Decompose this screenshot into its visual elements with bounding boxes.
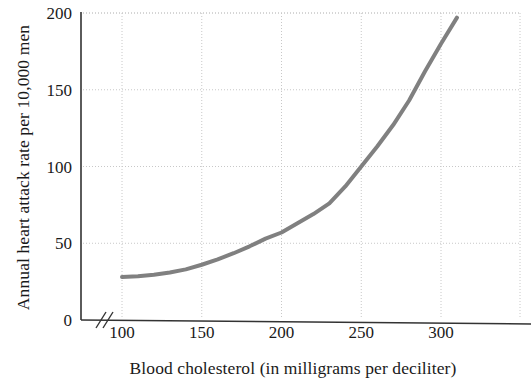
y-tick-label: 150	[26, 82, 72, 99]
x-tick-label: 100	[92, 323, 152, 343]
y-tick-label: 0	[26, 312, 72, 329]
x-tick-label: 150	[172, 323, 232, 343]
chart-container: Annual heart attack rate per 10,000 men …	[0, 0, 531, 385]
x-tick-label: 250	[331, 323, 391, 343]
y-tick-label: 100	[26, 159, 72, 176]
gridlines	[83, 13, 520, 319]
x-tick-label: 300	[411, 323, 471, 343]
x-axis-title: Blood cholesterol (in milligrams per dec…	[62, 358, 524, 379]
y-tick-label: 200	[26, 5, 72, 22]
x-tick-label: 200	[252, 323, 312, 343]
data-curve	[122, 18, 457, 277]
y-tick-label: 50	[26, 235, 72, 252]
